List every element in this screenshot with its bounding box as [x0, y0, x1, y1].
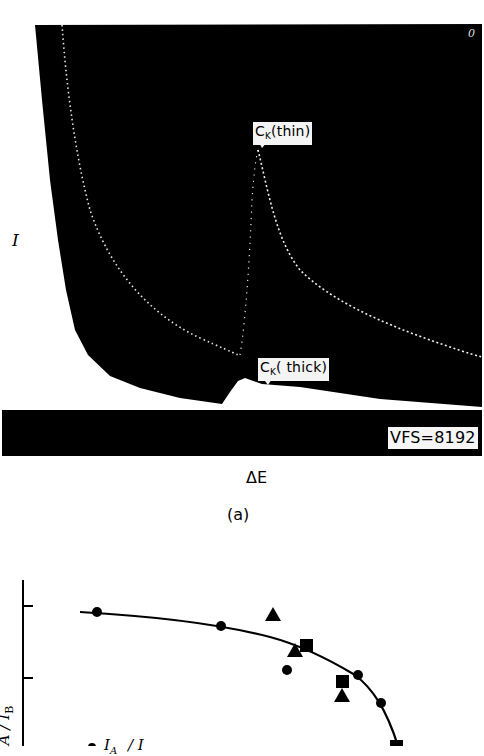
ratio-plot: [0, 560, 484, 746]
y-axis-label-b: A / IB: [0, 706, 16, 745]
vfs-label: VFS=8192: [388, 427, 478, 449]
corner-mark: 0: [468, 27, 475, 40]
x-axis-label-a: ΔE: [246, 468, 267, 487]
fit-curve: [80, 612, 398, 746]
ck-thin-main: C: [255, 123, 265, 139]
y-axis-label-b-main: A / I: [0, 714, 13, 745]
ck-thin-label: CK(thin): [253, 122, 312, 145]
y-axis-label-a: I: [12, 230, 19, 250]
legend-sub: A: [110, 745, 117, 756]
data-point-circle: [282, 665, 292, 675]
data-point-triangle: [334, 688, 350, 702]
ck-thick-suffix: ( thick): [276, 359, 327, 375]
legend-tail: / I: [128, 736, 144, 754]
data-point-square: [300, 639, 313, 652]
ck-thick-label: CK( thick): [258, 358, 329, 381]
data-point-triangle: [265, 607, 281, 621]
y-axis-label-b-sub: B: [3, 706, 16, 714]
data-point-square: [336, 675, 349, 688]
scope-background: [35, 24, 482, 407]
data-point-circle: [92, 607, 102, 617]
data-point-circle: [353, 670, 363, 680]
data-point-square: [390, 740, 403, 746]
ck-thick-main: C: [260, 359, 270, 375]
data-point-circle: [376, 698, 386, 708]
ck-thin-suffix: (thin): [271, 123, 310, 139]
legend-circle-icon: [88, 743, 96, 746]
spectrum-panel-a: [0, 0, 484, 470]
panel-label-a: (a): [227, 505, 249, 524]
data-point-circle: [216, 621, 226, 631]
legend-text: IA / I: [104, 736, 144, 756]
